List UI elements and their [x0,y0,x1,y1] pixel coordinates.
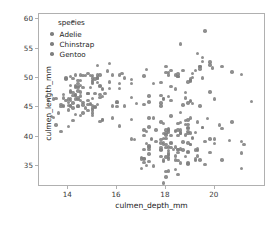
data-point [220,65,223,68]
x-tick-mark [214,186,215,189]
data-point [123,76,126,79]
data-point [159,101,162,104]
data-point [196,52,199,55]
data-point [194,69,197,72]
data-point [152,164,155,167]
data-point [130,78,133,81]
data-point [194,157,197,160]
data-point [64,77,67,80]
data-point [130,118,133,121]
data-point [79,94,82,97]
data-point [203,140,206,143]
data-point [118,82,121,85]
data-point [184,96,187,99]
data-point [145,68,148,71]
data-point [145,130,148,133]
data-point [76,104,79,107]
data-point [191,72,194,75]
data-point [174,154,177,157]
y-tick-label: 50 [24,72,33,81]
data-point [203,29,206,32]
data-point [186,161,189,164]
data-point [108,62,111,65]
data-point [164,170,167,173]
data-point [115,100,118,103]
data-point [208,63,211,66]
data-point [74,73,77,76]
y-tick-mark [35,136,38,137]
data-point [179,111,182,114]
data-point [147,116,150,119]
data-point [106,69,109,72]
data-point [79,73,82,76]
x-axis-label: culmen_depth_mm [38,201,265,210]
data-point [96,64,99,67]
x-tick-mark [165,186,166,189]
data-point [154,140,157,143]
data-point [201,76,204,79]
data-point [164,65,167,68]
data-point [162,160,165,163]
data-point [176,173,179,176]
data-point [147,144,150,147]
data-point [142,161,145,164]
data-point [169,141,172,144]
data-point [213,137,216,140]
y-tick-label: 45 [24,102,33,111]
data-point [147,160,150,163]
x-tick-mark [67,186,68,189]
data-point [189,131,192,134]
data-point [159,120,162,123]
data-point [167,154,170,157]
data-point [179,121,182,124]
x-tick-mark [116,186,117,189]
data-point [164,175,167,178]
data-point [167,157,170,160]
legend-item-chinstrap[interactable]: Chinstrap [48,39,94,49]
data-point [176,151,179,154]
data-point [201,56,204,59]
x-tick-label: 14 [63,190,72,199]
data-point [186,150,189,153]
scatter-plot-figure: 14161820 354045505560 culmen_depth_mm cu… [0,0,279,225]
y-tick-label: 60 [24,14,33,23]
data-point [115,105,118,108]
data-point [98,73,101,76]
legend-item-label: Gentoo [60,50,86,59]
data-point [159,148,162,151]
data-point [162,181,165,184]
x-tick-label: 16 [112,190,121,199]
data-point [179,42,182,45]
legend-item-label: Chinstrap [60,40,95,49]
data-point [86,92,89,95]
data-point [147,152,150,155]
data-point [93,77,96,80]
data-point [220,127,223,130]
legend-item-gentoo[interactable]: Gentoo [48,49,94,59]
data-point [213,97,216,100]
data-point [71,119,74,122]
data-point [201,126,204,129]
data-point [184,119,187,122]
data-point [84,106,87,109]
data-point [140,167,143,170]
data-point [145,164,148,167]
data-point [242,143,245,146]
y-tick-label: 40 [24,131,33,140]
data-point [142,74,145,77]
data-point [135,102,138,105]
data-point [67,108,70,111]
data-point [142,148,145,151]
y-tick-mark [35,165,38,166]
data-point [152,116,155,119]
data-point [118,87,121,90]
data-point [164,131,167,134]
data-point [142,103,145,106]
data-point [108,87,111,90]
legend-item-adelie[interactable]: Adelie [48,29,94,39]
data-point [228,139,231,142]
y-tick-label: 35 [24,160,33,169]
data-point [196,120,199,123]
legend-marker-icon [50,42,54,46]
data-point [118,73,121,76]
